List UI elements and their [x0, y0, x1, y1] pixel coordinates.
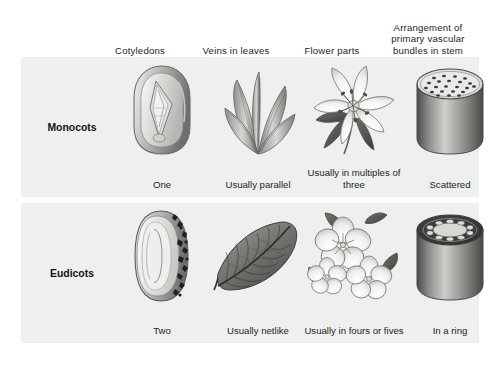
lily-flower-icon [306, 60, 402, 160]
cell-monocot-flower: Usually in multiples of three [306, 58, 402, 196]
column-header-cotyledons: Cotyledons [92, 45, 188, 57]
cell-monocot-cotyledons: One [114, 58, 210, 196]
bean-seed-icon [114, 206, 210, 306]
monocot-eudicot-comparison-figure: Cotyledons Veins in leaves Flower parts … [0, 0, 498, 367]
column-header-row: Cotyledons Veins in leaves Flower parts … [22, 8, 478, 56]
netlike-veined-leaf-icon [210, 206, 306, 306]
cell-eudicot-flower: Usually in fours or fives [306, 204, 402, 342]
column-header-veins-in-leaves: Veins in leaves [188, 45, 284, 57]
scattered-bundles-stem-icon [400, 60, 498, 160]
cell-monocot-veins: Usually parallel [210, 58, 306, 196]
column-header-vascular-bundles: Arrangement of primary vascular bundles … [378, 22, 478, 57]
caption-eudicot-veins: Usually netlike [204, 325, 312, 337]
cell-eudicot-stem: In a ring [400, 204, 498, 342]
caption-monocot-cotyledons: One [108, 179, 216, 191]
caption-monocot-stem: Scattered [394, 179, 498, 191]
cell-eudicot-veins: Usually netlike [210, 204, 306, 342]
cell-eudicot-cotyledons: Two [114, 204, 210, 342]
eudicot-row-panel: Eudicots [22, 204, 478, 342]
caption-eudicot-stem: In a ring [394, 325, 498, 337]
cell-monocot-stem: Scattered [400, 58, 498, 196]
caption-monocot-flower: Usually in multiples of three [300, 167, 408, 190]
five-petal-flowers-icon [306, 206, 402, 306]
monocot-row-panel: Monocots [22, 58, 478, 196]
caption-eudicot-cotyledons: Two [108, 325, 216, 337]
parallel-veined-leaves-icon [210, 60, 306, 160]
corn-kernel-seed-icon [114, 60, 210, 160]
caption-eudicot-flower: Usually in fours or fives [300, 325, 408, 337]
ring-bundles-stem-icon [400, 206, 498, 306]
column-header-flower-parts: Flower parts [284, 45, 380, 57]
row-label-eudicots: Eudicots [32, 268, 112, 279]
row-label-monocots: Monocots [32, 122, 112, 133]
caption-monocot-veins: Usually parallel [204, 179, 312, 191]
